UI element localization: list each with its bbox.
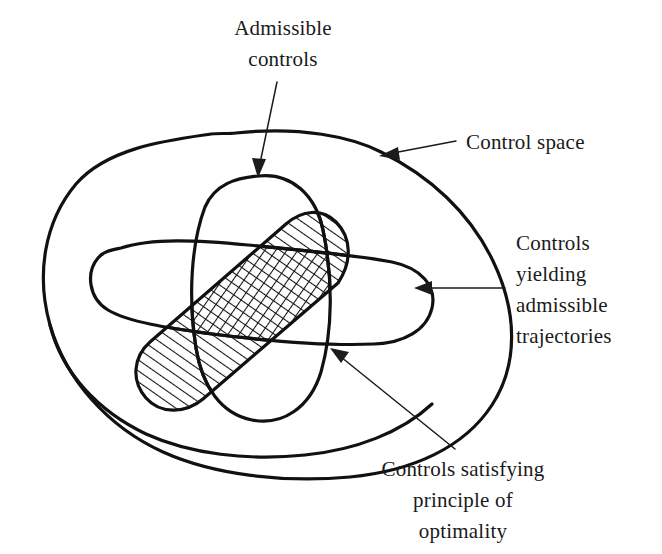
control-space-diagram: Admissible controls Control space Contro… <box>0 0 662 554</box>
label-admissible-controls-line2: controls <box>248 47 317 71</box>
label-optimality-line3: optimality <box>419 519 508 543</box>
label-admissible-trajectories-line4: trajectories <box>516 324 612 348</box>
figure-root: Admissible controls Control space Contro… <box>0 0 662 554</box>
label-control-space-line1: Control space <box>466 130 585 154</box>
label-admissible-trajectories-line1: Controls <box>516 231 590 255</box>
label-control-space: Control space <box>466 130 585 154</box>
label-admissible-controls-line1: Admissible <box>234 16 332 40</box>
label-optimality-line1: Controls satisfying <box>381 457 544 481</box>
label-admissible-trajectories-line3: admissible <box>516 293 608 317</box>
label-admissible-trajectories-line2: yielding <box>516 262 587 286</box>
label-optimality-line2: principle of <box>413 488 513 512</box>
